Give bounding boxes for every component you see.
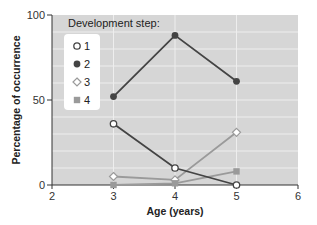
filled-square-marker-icon xyxy=(172,180,178,186)
legend-item-label: 4 xyxy=(84,94,90,106)
filled-circle-marker-icon xyxy=(74,61,81,68)
filled-square-marker-icon xyxy=(110,182,116,188)
line-chart: 05010023456 Development step:1234 Percen… xyxy=(0,0,317,225)
x-tick-label: 3 xyxy=(110,190,116,202)
y-tick-label: 50 xyxy=(33,94,45,106)
filled-circle-marker-icon xyxy=(233,78,240,85)
x-tick-label: 6 xyxy=(295,190,301,202)
open-circle-marker-icon xyxy=(172,165,178,171)
legend-item-label: 3 xyxy=(84,76,90,88)
open-circle-marker-icon xyxy=(74,43,80,49)
x-tick-label: 2 xyxy=(49,190,55,202)
filled-square-marker-icon xyxy=(233,168,239,174)
open-circle-marker-icon xyxy=(110,121,116,127)
y-axis-label: Percentage of occurrence xyxy=(10,35,22,164)
x-tick-label: 5 xyxy=(233,190,239,202)
legend-title: Development step: xyxy=(68,17,160,29)
legend-item-label: 1 xyxy=(84,40,90,52)
open-circle-marker-icon xyxy=(233,182,239,188)
y-tick-label: 0 xyxy=(39,179,45,191)
filled-circle-marker-icon xyxy=(172,32,179,39)
x-tick-label: 4 xyxy=(172,190,178,202)
filled-square-marker-icon xyxy=(74,97,80,103)
legend-box xyxy=(64,34,100,110)
y-tick-label: 100 xyxy=(27,9,45,21)
x-axis-label: Age (years) xyxy=(146,205,203,217)
filled-circle-marker-icon xyxy=(110,93,117,100)
legend-item-label: 2 xyxy=(84,58,90,70)
